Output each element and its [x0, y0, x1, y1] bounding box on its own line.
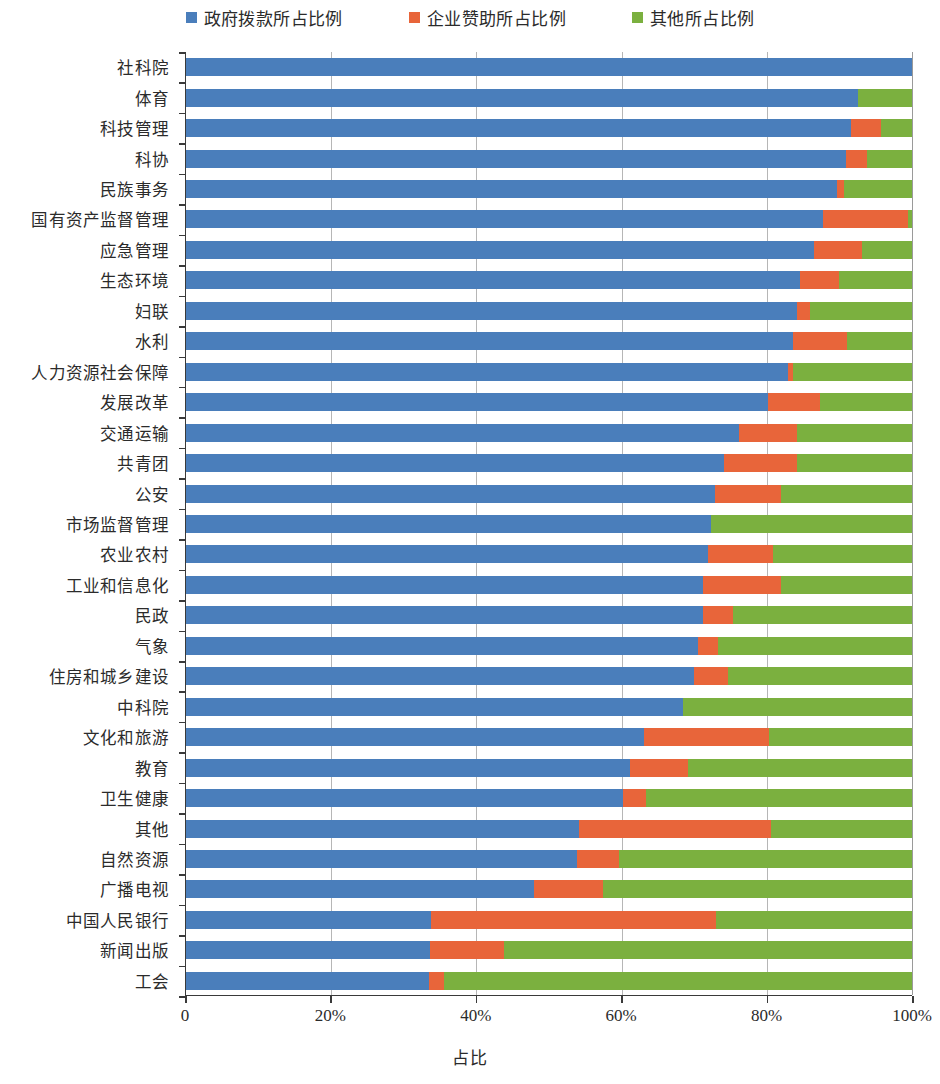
bar-row[interactable]: [186, 874, 912, 904]
bar-row[interactable]: [186, 265, 912, 295]
bar-segment-other[interactable]: [733, 606, 912, 624]
bar-row[interactable]: [186, 783, 912, 813]
bar-segment-gov[interactable]: [186, 150, 846, 168]
bar-segment-corp[interactable]: [851, 119, 881, 137]
bar-segment-other[interactable]: [619, 850, 912, 868]
bar-segment-gov[interactable]: [186, 302, 797, 320]
bar-row[interactable]: [186, 631, 912, 661]
bar-segment-corp[interactable]: [579, 820, 771, 838]
bar-segment-other[interactable]: [797, 454, 912, 472]
bar-segment-other[interactable]: [771, 820, 912, 838]
bar-row[interactable]: [186, 235, 912, 265]
bar-row[interactable]: [186, 905, 912, 935]
bar-segment-gov[interactable]: [186, 454, 724, 472]
bar-segment-other[interactable]: [847, 332, 912, 350]
bar-segment-other[interactable]: [716, 911, 912, 929]
bar-segment-corp[interactable]: [534, 880, 603, 898]
bar-row[interactable]: [186, 326, 912, 356]
legend-item-corp[interactable]: 企业赞助所占比例: [409, 5, 566, 30]
bar-segment-corp[interactable]: [698, 637, 718, 655]
bar-segment-other[interactable]: [773, 545, 912, 563]
bar-segment-gov[interactable]: [186, 210, 823, 228]
bar-segment-other[interactable]: [797, 424, 912, 442]
bar-segment-corp[interactable]: [724, 454, 797, 472]
bar-segment-other[interactable]: [646, 789, 912, 807]
bar-segment-other[interactable]: [908, 210, 912, 228]
bar-segment-gov[interactable]: [186, 241, 814, 259]
bar-row[interactable]: [186, 204, 912, 234]
bar-segment-corp[interactable]: [429, 972, 444, 990]
bar-segment-gov[interactable]: [186, 271, 800, 289]
bar-segment-other[interactable]: [711, 515, 912, 533]
bar-segment-other[interactable]: [820, 393, 912, 411]
bar-row[interactable]: [186, 600, 912, 630]
bar-segment-corp[interactable]: [703, 606, 733, 624]
bar-segment-corp[interactable]: [793, 332, 847, 350]
bar-segment-corp[interactable]: [797, 302, 810, 320]
bar-segment-gov[interactable]: [186, 698, 683, 716]
bar-segment-other[interactable]: [718, 637, 912, 655]
bar-segment-gov[interactable]: [186, 789, 623, 807]
bar-segment-other[interactable]: [793, 363, 912, 381]
bar-row[interactable]: [186, 357, 912, 387]
bar-segment-corp[interactable]: [715, 485, 781, 503]
bar-segment-gov[interactable]: [186, 119, 851, 137]
legend-item-gov[interactable]: 政府拨款所占比例: [186, 5, 343, 30]
bar-row[interactable]: [186, 417, 912, 447]
bar-segment-corp[interactable]: [430, 941, 504, 959]
bar-segment-corp[interactable]: [708, 545, 773, 563]
legend-item-other[interactable]: 其他所占比例: [632, 5, 754, 30]
bar-segment-gov[interactable]: [186, 667, 694, 685]
bar-segment-corp[interactable]: [623, 789, 646, 807]
bar-row[interactable]: [186, 813, 912, 843]
bar-segment-other[interactable]: [444, 972, 912, 990]
bar-segment-corp[interactable]: [644, 728, 769, 746]
bar-row[interactable]: [186, 387, 912, 417]
bar-segment-other[interactable]: [867, 150, 912, 168]
bar-segment-other[interactable]: [504, 941, 912, 959]
bar-segment-gov[interactable]: [186, 941, 430, 959]
bar-segment-gov[interactable]: [186, 180, 837, 198]
bar-row[interactable]: [186, 844, 912, 874]
bar-row[interactable]: [186, 113, 912, 143]
bar-segment-gov[interactable]: [186, 728, 644, 746]
bar-segment-other[interactable]: [858, 89, 912, 107]
bar-segment-other[interactable]: [810, 302, 912, 320]
bar-segment-other[interactable]: [769, 728, 912, 746]
bar-segment-corp[interactable]: [823, 210, 907, 228]
bar-row[interactable]: [186, 143, 912, 173]
bar-row[interactable]: [186, 752, 912, 782]
bar-segment-gov[interactable]: [186, 515, 711, 533]
bar-segment-gov[interactable]: [186, 880, 534, 898]
bar-segment-gov[interactable]: [186, 58, 912, 76]
bar-segment-corp[interactable]: [800, 271, 838, 289]
bar-segment-other[interactable]: [688, 759, 912, 777]
bar-segment-corp[interactable]: [577, 850, 618, 868]
bar-segment-other[interactable]: [844, 180, 912, 198]
bar-segment-corp[interactable]: [846, 150, 867, 168]
bar-segment-gov[interactable]: [186, 972, 429, 990]
bar-segment-gov[interactable]: [186, 759, 630, 777]
bar-segment-other[interactable]: [839, 271, 912, 289]
bar-segment-gov[interactable]: [186, 332, 793, 350]
bar-segment-corp[interactable]: [739, 424, 796, 442]
bar-segment-corp[interactable]: [431, 911, 716, 929]
bar-segment-other[interactable]: [781, 576, 912, 594]
bar-segment-gov[interactable]: [186, 637, 698, 655]
bar-row[interactable]: [186, 82, 912, 112]
bar-segment-corp[interactable]: [768, 393, 820, 411]
bar-segment-gov[interactable]: [186, 576, 703, 594]
bar-row[interactable]: [186, 691, 912, 721]
bar-segment-corp[interactable]: [837, 180, 844, 198]
bar-row[interactable]: [186, 174, 912, 204]
bar-row[interactable]: [186, 448, 912, 478]
bar-segment-gov[interactable]: [186, 393, 768, 411]
bar-segment-gov[interactable]: [186, 363, 788, 381]
bar-segment-corp[interactable]: [703, 576, 781, 594]
bar-segment-gov[interactable]: [186, 89, 858, 107]
bar-row[interactable]: [186, 539, 912, 569]
bar-segment-corp[interactable]: [694, 667, 728, 685]
bar-row[interactable]: [186, 52, 912, 82]
bar-segment-corp[interactable]: [814, 241, 862, 259]
bar-segment-gov[interactable]: [186, 485, 715, 503]
